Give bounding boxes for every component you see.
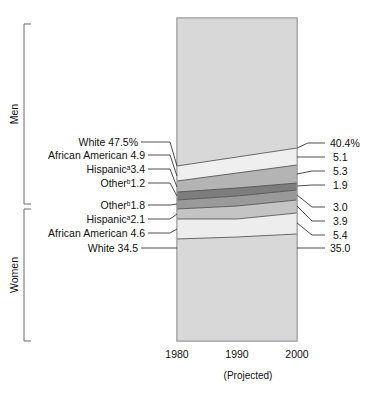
value-men-hispanic: 5.3 [333,165,348,177]
projected-note: (Projected) [224,370,273,381]
label-men-other-value: 1.2 [130,177,145,189]
label-men-african-american: African American 4.9 [48,149,145,161]
label-women-other: Otherb1.8 [101,199,146,211]
label-men-other: Otherb1.2 [101,177,146,189]
label-women-hispanic-text: Hispanic [86,213,126,225]
group-label-women: Women [8,257,20,293]
label-women-white: White 34.5 [88,242,138,254]
x-tick-1990: 1990 [225,348,249,360]
label-men-hispanic-value: 3.4 [130,163,145,175]
value-men-african-american: 5.1 [333,151,348,163]
band-women-white [177,234,297,341]
labor-force-composition-chart: White 47.5% African American 4.9 Hispani… [0,0,370,399]
label-men-white: White 47.5% [78,136,138,148]
band-men-white [177,18,297,166]
value-women-white: 35.0 [330,242,351,254]
value-men-white: 40.4% [330,137,360,149]
label-men-hispanic: Hispanica3.4 [86,163,145,175]
value-men-other: 1.9 [333,179,348,191]
label-women-african-american: African American 4.6 [48,227,145,239]
label-women-hispanic-value: 2.1 [130,213,145,225]
x-tick-1980: 1980 [165,348,189,360]
label-men-hispanic-text: Hispanic [86,163,126,175]
value-women-other: 3.0 [333,201,348,213]
label-women-other-value: 1.8 [130,199,145,211]
x-tick-2000: 2000 [285,348,309,360]
label-women-other-text: Other [101,199,128,211]
value-women-hispanic: 3.9 [333,215,348,227]
value-women-african-american: 5.4 [333,229,348,241]
label-women-hispanic: Hispanica2.1 [86,213,145,225]
group-label-men: Men [8,104,20,125]
label-men-other-text: Other [101,177,128,189]
